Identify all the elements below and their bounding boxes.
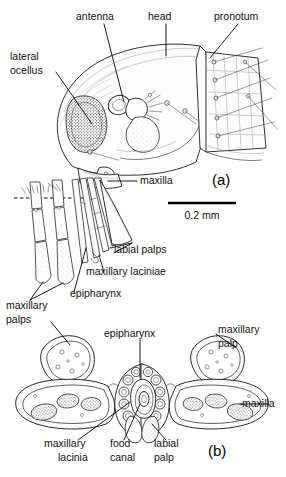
label-maxillary-lacinia-line2: lacinia: [58, 451, 88, 463]
label-maxillary-palps-line2: palps: [6, 313, 31, 325]
label-epipharynx-b: epipharynx: [104, 327, 156, 339]
label-labial-palp-line2: palp: [154, 451, 174, 463]
scale-bar-label: 0.2 mm: [184, 209, 219, 221]
scientific-figure: 0.2 mm: [0, 0, 286, 477]
label-epipharynx-a: epipharynx: [70, 287, 122, 299]
label-labial-palps: labial palps: [114, 243, 167, 255]
label-food-canal-line1: food: [110, 437, 131, 449]
label-lateral-ocellus-line2: ocellus: [10, 64, 43, 76]
label-maxilla-a: maxilla: [140, 174, 173, 186]
label-maxillary-palp-line1: maxillary: [218, 323, 260, 335]
label-lateral-ocellus-line1: lateral: [10, 50, 39, 62]
lateral-ocellus: [66, 96, 107, 152]
label-labial-palp-line1: labial: [154, 437, 179, 449]
label-panel-b: (b): [208, 442, 226, 459]
label-antenna: antenna: [76, 10, 114, 22]
label-maxillary-palp-line2: palp: [218, 337, 238, 349]
label-head: head: [148, 10, 172, 22]
label-panel-a: (a): [212, 171, 230, 188]
label-maxilla-b: maxilla: [242, 397, 275, 409]
food-canal-lumen: [142, 395, 147, 402]
label-maxillary-laciniae: maxillary laciniae: [86, 265, 166, 277]
label-pronotum: pronotum: [214, 10, 259, 22]
label-maxillary-lacinia-line1: maxillary: [44, 437, 86, 449]
label-maxillary-palps-line1: maxillary: [6, 299, 48, 311]
figure-container: 0.2 mm: [0, 0, 286, 477]
pronotum-plate: [206, 52, 266, 152]
label-food-canal-line2: canal: [110, 451, 135, 463]
